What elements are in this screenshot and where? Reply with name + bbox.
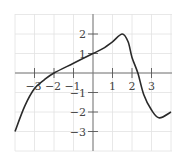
x-tick-label: 3 (148, 80, 155, 93)
y-tick-label: −3 (70, 126, 86, 139)
y-tick-label: −2 (70, 106, 86, 119)
x-tick-label: 1 (109, 80, 116, 93)
y-tick-label: 2 (79, 28, 86, 41)
y-tick-label: −1 (70, 87, 86, 100)
chart: −3−2−1123 21−1−2−3 (0, 0, 181, 158)
x-tick-label: 2 (129, 80, 136, 93)
x-tick-label: −2 (45, 80, 61, 93)
x-ticks: −3−2−1123 (25, 68, 155, 93)
